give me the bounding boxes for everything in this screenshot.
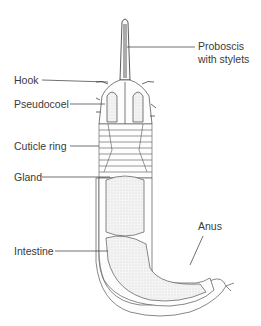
- label-pseudocoel: Pseudocoel: [14, 98, 69, 110]
- label-proboscis-stylets: with stylets: [198, 53, 249, 65]
- label-anus: Anus: [198, 220, 222, 232]
- label-hook: Hook: [14, 74, 39, 86]
- label-gland: Gland: [14, 171, 42, 183]
- body: [96, 176, 234, 316]
- head: [99, 80, 152, 124]
- label-proboscis: Proboscis: [198, 40, 244, 52]
- label-intestine: Intestine: [14, 245, 54, 257]
- cuticle-rings: [99, 124, 152, 178]
- label-cuticle-ring: Cuticle ring: [14, 140, 67, 152]
- proboscis: [120, 19, 130, 80]
